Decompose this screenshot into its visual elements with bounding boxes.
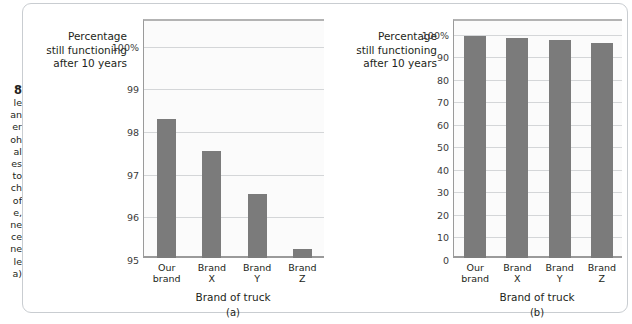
x-axis-tick-label: BrandY	[243, 262, 271, 285]
gridline	[144, 47, 324, 48]
chart-b-plot-area: 0102030405060708090100%OurbrandBrandXBra…	[453, 19, 622, 258]
bar	[248, 194, 267, 258]
caption-line-fragment: of	[0, 195, 22, 207]
y-axis-tick-label: 100%	[422, 29, 449, 40]
x-axis-tick-label: BrandX	[198, 262, 226, 285]
bar	[549, 40, 571, 258]
y-axis-tick-label: 95	[127, 255, 139, 266]
caption-line-fragment: er	[0, 121, 22, 133]
caption-line-fragment: le	[0, 256, 22, 268]
caption-line-fragment: le	[0, 97, 22, 109]
figure-caption-strip: 8leanerohalestochofe,necenelea)	[0, 84, 22, 280]
x-axis-tick-label: BrandZ	[588, 262, 616, 285]
y-axis-tick-label: 99	[127, 84, 139, 95]
caption-line-fragment: ne	[0, 219, 22, 231]
caption-line-fragment: a)	[0, 268, 22, 280]
x-axis-tick-label: Ourbrand	[461, 262, 489, 285]
gridline	[454, 35, 622, 36]
y-axis-title-line: still functioning	[333, 44, 437, 58]
y-axis-tick-label: 96	[127, 212, 139, 223]
y-axis-tick-label: 97	[127, 169, 139, 180]
y-axis-tick-label: 98	[127, 126, 139, 137]
caption-line-fragment: an	[0, 109, 22, 121]
y-axis-title-line: after 10 years	[31, 57, 127, 71]
caption-line-fragment: to	[0, 170, 22, 182]
chart-a-plot-area: 9596979899100%OurbrandBrandXBrandYBrandZ	[143, 19, 324, 258]
chart-b-block: Percentagestill functioningafter 10 year…	[339, 4, 629, 312]
bar	[506, 38, 528, 258]
figure-panel: Percentagestill functioningafter 10 year…	[22, 3, 628, 313]
y-axis-tick-label: 20	[437, 209, 449, 220]
bar	[157, 119, 176, 258]
y-axis-tick-label: 50	[437, 142, 449, 153]
y-axis-tick-label: 70	[437, 97, 449, 108]
x-axis-tick-label: Ourbrand	[153, 262, 181, 285]
y-axis-title-line: after 10 years	[333, 57, 437, 71]
gridline	[144, 89, 324, 90]
y-axis-tick-label: 30	[437, 187, 449, 198]
caption-line-fragment: es	[0, 158, 22, 170]
y-axis-tick-label: 100%	[112, 41, 139, 52]
y-axis-tick-label: 0	[443, 255, 449, 266]
y-axis-tick-label: 10	[437, 232, 449, 243]
caption-line-fragment: e,	[0, 207, 22, 219]
x-axis-tick-label: BrandX	[503, 262, 531, 285]
caption-line-fragment: al	[0, 146, 22, 158]
chart-a-block: Percentagestill functioningafter 10 year…	[23, 4, 339, 312]
caption-line-fragment: ce	[0, 231, 22, 243]
chart-b-panel-label: (b)	[453, 307, 621, 318]
x-axis-tick-label: BrandZ	[288, 262, 316, 285]
y-axis-tick-label: 80	[437, 74, 449, 85]
caption-line-fragment: oh	[0, 134, 22, 146]
bar	[202, 151, 221, 258]
caption-line-fragment: ch	[0, 182, 22, 194]
bar	[464, 36, 486, 258]
y-axis-tick-label: 90	[437, 52, 449, 63]
bar	[293, 249, 312, 258]
x-axis-tick-label: BrandY	[545, 262, 573, 285]
caption-line-fragment: ne	[0, 243, 22, 255]
bar	[591, 43, 613, 258]
y-axis-tick-label: 40	[437, 164, 449, 175]
chart-a-x-axis-title: Brand of truck	[143, 291, 323, 303]
y-axis-tick-label: 60	[437, 119, 449, 130]
figure-number: 8	[0, 84, 22, 97]
chart-a-panel-label: (a)	[143, 307, 323, 318]
chart-b-x-axis-title: Brand of truck	[453, 291, 621, 303]
